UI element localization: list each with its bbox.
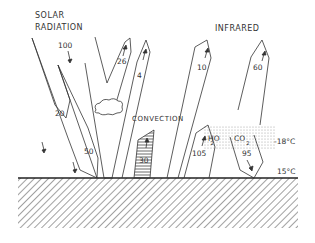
convection-value: 30: [139, 157, 149, 165]
solar-radiation-label-line1: SOLAR: [35, 12, 65, 20]
infrared-label: INFRARED: [215, 25, 259, 33]
solar-incoming-value: 100: [58, 42, 72, 50]
solar-reflected-clouds-value: 26: [117, 58, 127, 66]
solar-reflected-surface-value: 4: [137, 72, 142, 80]
infrared-surface-escape-value: 10: [197, 64, 207, 72]
convection-label: CONVECTION: [132, 116, 184, 123]
ground-surface: [18, 178, 298, 228]
solar-radiation-label-line2: RADIATION: [35, 24, 83, 32]
solar-incoming-arrow: [32, 38, 97, 178]
infrared-atmosphere-emission-value: 60: [253, 64, 263, 72]
convection-arrow: [134, 130, 154, 178]
water-vapor-label: HO2: [208, 135, 223, 143]
solar-absorbed-atmosphere-value: 20: [55, 110, 65, 118]
carbon-dioxide-text: CO: [234, 134, 245, 143]
carbon-dioxide-label: CO2: [234, 135, 248, 143]
atmosphere-temperature-label: -18°C: [274, 138, 295, 146]
surface-temperature-label: 15°C: [277, 168, 296, 176]
infrared-back-radiation-value: 95: [242, 150, 252, 158]
infrared-surface-emission-value: 105: [192, 150, 206, 158]
water-vapor-subscript: 2: [211, 140, 214, 146]
cloud-icon: [95, 99, 123, 115]
solar-absorbed-surface-value: 50: [84, 148, 94, 156]
direction-ticks: [42, 45, 266, 173]
carbon-dioxide-subscript: 2: [246, 140, 249, 146]
